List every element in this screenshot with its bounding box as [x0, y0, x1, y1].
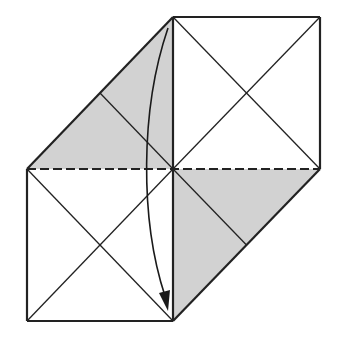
bottom-left-square	[27, 169, 173, 321]
top-right-square	[173, 17, 320, 169]
origami-diagram	[0, 0, 340, 342]
